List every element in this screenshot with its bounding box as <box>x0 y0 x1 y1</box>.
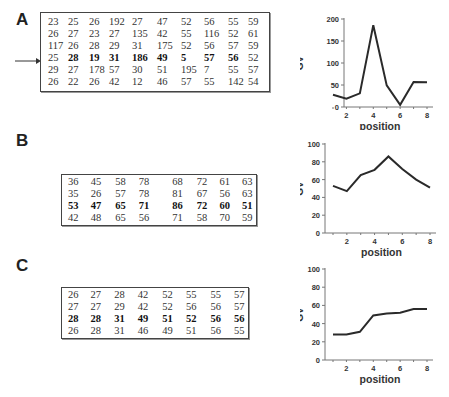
table-cell: 51 <box>242 200 256 212</box>
table-cell: 55 <box>228 64 248 76</box>
table-cell: 42 <box>138 301 163 313</box>
table-row: 262226421246575514254 <box>48 76 266 88</box>
table-cell: 28 <box>68 313 91 325</box>
table-cell: 195 <box>181 64 204 76</box>
values-table: 3645587868726163352657788167566353476571… <box>68 176 256 224</box>
y-axis-label: GV <box>300 307 305 322</box>
data-line <box>333 309 427 334</box>
table-cell: 57 <box>204 52 228 64</box>
table-cell: 55 <box>234 325 248 337</box>
table-cell: 31 <box>109 52 132 64</box>
table-cell: 56 <box>228 52 248 64</box>
table-cell: 55 <box>204 76 228 88</box>
table-cell: 27 <box>68 28 89 40</box>
gray-value-table-c: 2627284252555557272729425256565728283149… <box>61 287 249 339</box>
table-cell: 65 <box>115 212 139 224</box>
table-cell: 56 <box>234 313 248 325</box>
x-tick-label: 6 <box>398 111 402 120</box>
table-cell: 53 <box>68 200 91 212</box>
table-cell: 26 <box>48 28 68 40</box>
table-cell: 57 <box>234 301 248 313</box>
table-cell: 71 <box>172 212 197 224</box>
table-row: 5347657186726051 <box>68 200 256 212</box>
x-tick-label: 6 <box>400 237 404 246</box>
y-tick-label: 40 <box>312 320 320 329</box>
y-tick-label: 40 <box>312 193 320 202</box>
table-cell: 27 <box>109 28 132 40</box>
table-cell: 28 <box>89 40 109 52</box>
table-cell: 57 <box>248 64 266 76</box>
table-cell: 58 <box>115 176 139 188</box>
table-cell: 27 <box>68 301 91 313</box>
table-cell: 56 <box>186 301 211 313</box>
table-cell: 142 <box>228 76 248 88</box>
table-cell: 28 <box>91 313 115 325</box>
table-cell: 55 <box>181 28 204 40</box>
table-row: 3526577881675663 <box>68 188 256 200</box>
table-cell: 51 <box>162 313 186 325</box>
table-cell: 35 <box>68 188 91 200</box>
table-row: 25281931186495575652 <box>48 52 266 64</box>
table-cell: 56 <box>210 325 234 337</box>
table-cell: 56 <box>139 212 172 224</box>
table-cell: 28 <box>68 52 89 64</box>
y-axis-label: GV <box>300 55 305 70</box>
x-tick-label: 6 <box>398 364 402 373</box>
line-chart-a: 0501001502002468positionGV <box>300 0 449 134</box>
table-cell: 57 <box>181 76 204 88</box>
table-cell: 178 <box>89 64 109 76</box>
table-cell: 52 <box>228 28 248 40</box>
table-cell: 57 <box>115 188 139 200</box>
table-cell: 55 <box>210 289 234 301</box>
table-cell: 192 <box>109 16 132 28</box>
table-cell: 31 <box>132 40 157 52</box>
y-tick-label: 100 <box>307 140 320 149</box>
table-cell: 28 <box>91 325 115 337</box>
table-cell: 52 <box>181 40 204 52</box>
table-cell: 49 <box>138 313 163 325</box>
table-cell: 86 <box>172 200 197 212</box>
table-cell: 36 <box>68 176 91 188</box>
table-cell: 27 <box>68 64 89 76</box>
table-cell: 30 <box>132 64 157 76</box>
table-cell: 26 <box>48 76 68 88</box>
table-cell: 42 <box>109 76 132 88</box>
data-line <box>333 156 430 191</box>
table-cell: 57 <box>228 40 248 52</box>
x-tick-label: 8 <box>425 364 429 373</box>
table-cell: 70 <box>219 212 242 224</box>
table-row: 2828314951525656 <box>68 313 248 325</box>
y-axis-label: GV <box>300 181 305 196</box>
y-tick-label: 100 <box>326 59 339 68</box>
table-cell: 57 <box>109 64 132 76</box>
y-tick-label: 20 <box>312 211 320 220</box>
table-cell: 54 <box>248 76 266 88</box>
table-cell: 29 <box>114 301 138 313</box>
table-cell: 55 <box>228 16 248 28</box>
table-cell: 52 <box>162 289 186 301</box>
table-cell: 27 <box>91 289 115 301</box>
table-cell: 65 <box>115 200 139 212</box>
table-cell: 29 <box>48 64 68 76</box>
table-cell: 72 <box>197 176 220 188</box>
table-cell: 49 <box>157 52 181 64</box>
table-cell: 26 <box>68 289 91 301</box>
table-cell: 27 <box>91 301 115 313</box>
gray-value-table-b: 3645587868726163352657788167566353476571… <box>61 174 257 226</box>
x-tick-label: 8 <box>428 237 432 246</box>
row-pointer-arrow-icon <box>14 56 42 66</box>
table-cell: 186 <box>132 52 157 64</box>
y-tick-label: 80 <box>312 158 320 167</box>
table-cell: 42 <box>138 289 163 301</box>
y-tick-label: 20 <box>312 338 320 347</box>
table-cell: 52 <box>162 301 186 313</box>
x-tick-label: 2 <box>345 237 349 246</box>
table-cell: 31 <box>114 313 138 325</box>
table-row: 2628314649515655 <box>68 325 248 337</box>
table-cell: 78 <box>139 176 172 188</box>
table-cell: 57 <box>234 289 248 301</box>
values-table: 2325261922747525655592627232713542551165… <box>48 16 266 88</box>
table-cell: 28 <box>114 289 138 301</box>
y-tick-label: 60 <box>312 176 320 185</box>
table-cell: 72 <box>197 200 220 212</box>
